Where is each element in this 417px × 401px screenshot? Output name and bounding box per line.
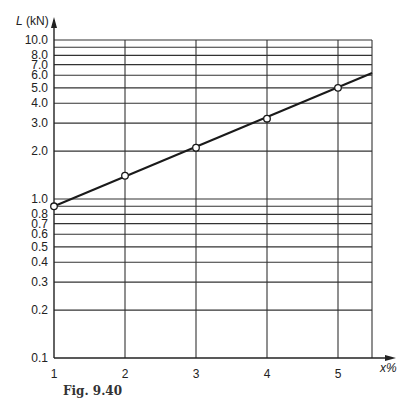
x-tick-label: 1 [51, 367, 58, 381]
y-tick-label: 8.0 [31, 48, 48, 62]
series-line [54, 73, 372, 206]
y-tick-label: 1.0 [31, 192, 48, 206]
y-tick-label: 0.2 [31, 303, 48, 317]
y-tick-label: 4.0 [31, 96, 48, 110]
y-tick-labels: 0.10.20.30.40.50.60.70.81.02.03.04.05.06… [25, 33, 49, 365]
figure-caption: Fig. 9.40 [63, 384, 122, 398]
y-tick-label: 0.3 [31, 275, 48, 289]
y-tick-label: 10.0 [25, 33, 49, 47]
log-line-chart: 0.10.20.30.40.50.60.70.81.02.03.04.05.06… [0, 0, 417, 401]
axes [51, 17, 396, 361]
y-tick-label: 2.0 [31, 144, 48, 158]
x-tick-label: 5 [335, 367, 342, 381]
data-point-marker [193, 144, 200, 151]
x-tick-label: 4 [264, 367, 271, 381]
y-tick-label: 0.8 [31, 207, 48, 221]
x-tick-label: 3 [193, 367, 200, 381]
data-point-marker [122, 172, 129, 179]
y-tick-label: 0.4 [31, 255, 48, 269]
y-tick-label: 3.0 [31, 116, 48, 130]
data-point-marker [335, 85, 342, 92]
y-tick-label: 5.0 [31, 81, 48, 95]
data-point-marker [51, 203, 58, 210]
data-point-marker [264, 115, 271, 122]
data-series [51, 73, 372, 210]
horizontal-gridlines [54, 40, 372, 310]
x-tick-label: 2 [122, 367, 129, 381]
y-axis-label: L (kN) [16, 14, 49, 28]
x-tick-labels: 12345 [51, 367, 342, 381]
x-axis-label: x% [379, 361, 397, 375]
y-tick-label: 0.1 [31, 351, 48, 365]
y-tick-label: 0.5 [31, 240, 48, 254]
y-axis-arrow-icon [51, 17, 57, 28]
